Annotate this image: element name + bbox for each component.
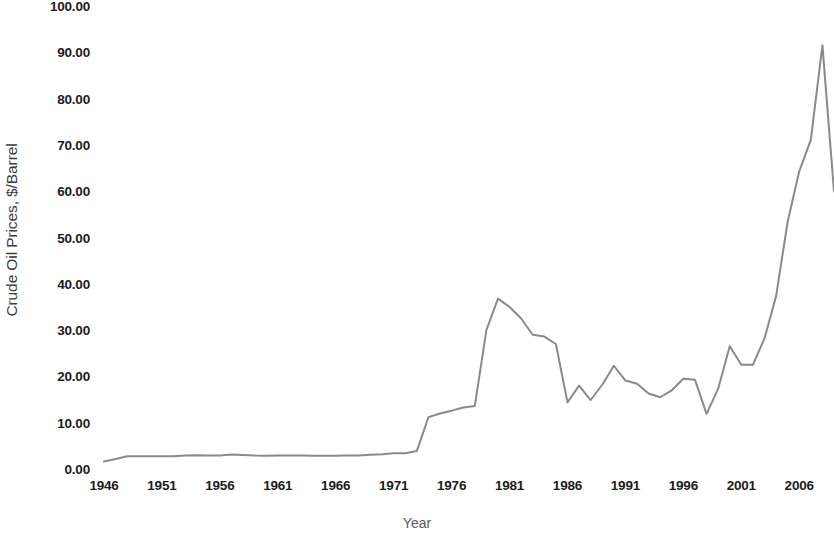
x-axis-tick-label: 1946 [89, 478, 118, 493]
y-axis-tick-label: 70.00 [57, 137, 90, 152]
y-axis-tick-label: 10.00 [57, 415, 90, 430]
x-axis-tick-label: 1996 [669, 478, 698, 493]
y-axis-tick-labels: 0.0010.0020.0030.0040.0050.0060.0070.008… [22, 0, 96, 480]
y-axis-tick-label: 90.00 [57, 45, 90, 60]
x-axis-title: Year [0, 515, 834, 531]
y-axis-tick-label: 80.00 [57, 91, 90, 106]
crude-oil-price-line-chart: Crude Oil Prices, $/Barrel 0.0010.0020.0… [0, 0, 834, 548]
x-axis-tick-label: 1981 [495, 478, 524, 493]
x-axis-tick-label: 1956 [205, 478, 234, 493]
x-axis-tick-label: 1971 [379, 478, 408, 493]
y-axis-tick-label: 20.00 [57, 369, 90, 384]
x-axis-tick-label: 2001 [727, 478, 756, 493]
y-axis-tick-label: 30.00 [57, 323, 90, 338]
x-axis-tick-label: 1961 [263, 478, 292, 493]
y-axis-tick-label: 0.00 [65, 462, 90, 477]
x-axis-tick-label: 1966 [321, 478, 350, 493]
y-axis-title: Crude Oil Prices, $/Barrel [0, 0, 24, 460]
x-axis-tick-label: 1951 [147, 478, 176, 493]
x-axis-tick-label: 2006 [785, 478, 814, 493]
y-axis-tick-label: 100.00 [50, 0, 90, 14]
y-axis-tick-label: 40.00 [57, 276, 90, 291]
y-axis-tick-label: 60.00 [57, 184, 90, 199]
x-axis-tick-labels: 1946195119561961196619711976198119861991… [0, 478, 834, 500]
x-axis-tick-label: 1991 [611, 478, 640, 493]
series-line-crude-oil-price [104, 45, 834, 461]
plot-svg [96, 6, 834, 469]
y-axis-title-text: Crude Oil Prices, $/Barrel [3, 143, 21, 316]
x-axis-tick-label: 1986 [553, 478, 582, 493]
plot-area [96, 6, 834, 469]
x-axis-tick-label: 1976 [437, 478, 466, 493]
y-axis-tick-label: 50.00 [57, 230, 90, 245]
